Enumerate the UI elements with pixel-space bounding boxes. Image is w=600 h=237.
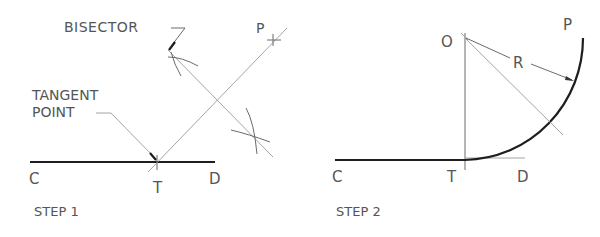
bisector-arc-lower-2	[231, 130, 270, 142]
bisector-arrowhead	[169, 42, 175, 50]
label-r: R	[513, 54, 523, 72]
diagonal-line	[465, 38, 563, 135]
label-tangent: TANGENT	[31, 87, 99, 103]
label-c-step1: C	[29, 170, 39, 188]
step-2-panel: O R P C T D STEP 2	[332, 16, 583, 219]
tangent-arc-construction-diagram: BISECTOR TANGENT POINT P C T D STEP 1 O …	[0, 0, 600, 237]
label-t-step2: T	[446, 168, 457, 186]
caption-step-2: STEP 2	[336, 204, 381, 219]
label-p-step2: P	[563, 16, 572, 34]
tangent-point-arrowhead	[150, 153, 156, 160]
label-t-step1: T	[152, 179, 163, 197]
label-d-step1: D	[209, 170, 221, 188]
radius-arrowhead	[565, 76, 574, 81]
tangent-arc	[465, 38, 583, 160]
label-o: O	[441, 33, 453, 51]
label-bisector: BISECTOR	[64, 19, 139, 35]
label-c-step2: C	[332, 168, 342, 186]
label-point: POINT	[32, 104, 75, 120]
radius-leader-1	[466, 38, 510, 58]
label-d-step2: D	[517, 168, 529, 186]
step-1-panel: BISECTOR TANGENT POINT P C T D STEP 1	[29, 19, 287, 219]
bisector-arc-upper-1	[171, 52, 181, 76]
tangent-point-leader	[96, 113, 155, 158]
caption-step-1: STEP 1	[34, 204, 79, 219]
bisector-line	[168, 50, 273, 157]
label-p-step1: P	[256, 20, 264, 36]
bisector-leader	[171, 28, 185, 45]
